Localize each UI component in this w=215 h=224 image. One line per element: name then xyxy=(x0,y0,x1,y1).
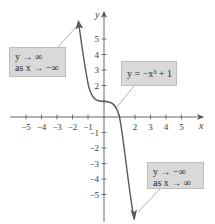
callout-equation: y = −x³ + 1 xyxy=(121,61,177,86)
y-tick-label: −2 xyxy=(89,143,99,153)
y-tick-label: −5 xyxy=(89,190,99,200)
y-tick-label: −1 xyxy=(89,128,99,138)
x-axis-label: x xyxy=(198,120,204,131)
x-tick-label: 2 xyxy=(133,122,138,132)
leader-line-equation xyxy=(116,86,134,108)
function-graph: −5 −4 −3 −2 −1 2 3 4 5 5 4 3 2 −1 −2 −3 … xyxy=(0,0,215,224)
callout-left-end-behavior: y → ∞ as x → −∞ xyxy=(9,47,66,77)
x-tick-label: 4 xyxy=(164,122,169,132)
curve-bottom-arrow xyxy=(131,210,138,222)
leader-line-right xyxy=(138,189,160,212)
y-tick-label: 5 xyxy=(95,34,100,44)
x-tick-label: 5 xyxy=(179,122,184,132)
function-curve xyxy=(79,22,135,219)
callout-left-line1: y → ∞ xyxy=(15,51,60,62)
y-tick-label: 4 xyxy=(95,50,100,60)
x-tick-label: 3 xyxy=(148,122,153,132)
x-tick-label: −2 xyxy=(68,122,78,132)
y-tick-label: 2 xyxy=(95,81,100,91)
leader-line-left xyxy=(58,27,76,47)
callout-left-line2: as x → −∞ xyxy=(15,62,60,73)
callout-right-line2: as x → ∞ xyxy=(153,177,198,188)
x-tick-label: −5 xyxy=(21,122,31,132)
x-tick-label: −4 xyxy=(37,122,47,132)
y-tick-label: 3 xyxy=(95,65,100,75)
y-tick-label: −3 xyxy=(89,159,99,169)
callout-right-line1: y → −∞ xyxy=(153,166,198,177)
y-axis-label: y xyxy=(94,9,100,20)
x-tick-label: −3 xyxy=(52,122,62,132)
callout-right-end-behavior: y → −∞ as x → ∞ xyxy=(147,162,204,189)
equation-text: y = −x³ + 1 xyxy=(127,68,172,79)
y-tick-label: −4 xyxy=(89,174,99,184)
